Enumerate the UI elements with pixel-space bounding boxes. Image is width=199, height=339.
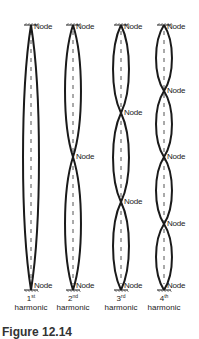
node-label: Node — [124, 109, 142, 117]
node-label: Node — [124, 23, 142, 31]
node-label: Node — [34, 282, 52, 290]
figure-caption: Figure 12.14 — [2, 325, 72, 339]
string-envelope — [31, 25, 39, 290]
node-label: Node — [167, 153, 185, 161]
harmonic-1 — [23, 23, 39, 292]
harmonic-label-3: 3rdharmonic — [101, 292, 141, 312]
node-label: Node — [34, 23, 52, 31]
node-label: Node — [76, 23, 94, 31]
harmonic-label-4: 4thharmonic — [144, 292, 184, 312]
harmonic-label-1: 1stharmonic — [11, 292, 51, 312]
node-label: Node — [167, 87, 185, 95]
node-label: Node — [124, 282, 142, 290]
node-label: Node — [167, 220, 185, 228]
node-label: Node — [124, 198, 142, 206]
node-label: Node — [167, 282, 185, 290]
node-label: Node — [76, 282, 94, 290]
string-envelope — [23, 25, 31, 290]
harmonic-label-2: 2ndharmonic — [53, 292, 93, 312]
node-label: Node — [76, 153, 94, 161]
harmonic-3 — [113, 23, 129, 292]
node-label: Node — [167, 23, 185, 31]
